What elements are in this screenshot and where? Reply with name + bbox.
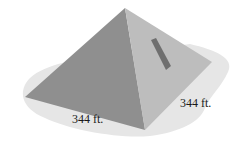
pyramid-figure: 344 ft. 344 ft. [0,0,247,141]
pyramid-drawing [0,0,247,141]
front-edge-label: 344 ft. [72,112,103,127]
right-edge-label: 344 ft. [180,96,211,111]
